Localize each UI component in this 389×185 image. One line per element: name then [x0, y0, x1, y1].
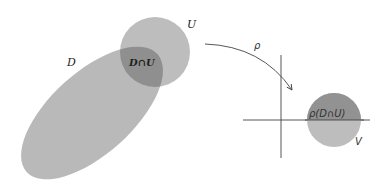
diagram-canvas: D U D∩U ρ ρ(D∩U) V: [0, 0, 389, 185]
label-v: V: [355, 136, 363, 147]
label-intersection: D∩U: [128, 57, 156, 68]
label-d: D: [66, 56, 76, 69]
label-image: ρ(D∩U): [309, 108, 346, 119]
label-map-rho: ρ: [254, 40, 261, 51]
label-u: U: [187, 18, 197, 31]
map-arrow: [205, 44, 292, 90]
